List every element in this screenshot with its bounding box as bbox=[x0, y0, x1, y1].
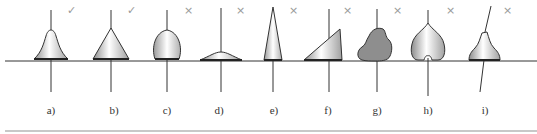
label-d: d) bbox=[214, 104, 223, 116]
shape-b-cone bbox=[93, 10, 129, 92]
cross-icon: × bbox=[503, 4, 512, 17]
label-c: c) bbox=[163, 104, 172, 116]
cross-icon: × bbox=[184, 4, 193, 17]
label-g: g) bbox=[372, 104, 381, 116]
shape-g-irregular-blob bbox=[358, 9, 392, 92]
label-e: e) bbox=[270, 104, 279, 116]
cross-icon: × bbox=[343, 4, 352, 17]
cross-icon: × bbox=[446, 4, 455, 17]
label-i: i) bbox=[482, 104, 489, 116]
cross-icon: × bbox=[236, 4, 245, 17]
shape-i-tilted-bell bbox=[469, 6, 500, 92]
check-icon: ✓ bbox=[67, 4, 76, 17]
bottom-divider bbox=[5, 130, 537, 132]
shape-c-dome bbox=[154, 10, 181, 92]
shape-e-tall-spike bbox=[264, 7, 282, 92]
label-f: f) bbox=[324, 104, 331, 116]
shape-f-right-triangle bbox=[304, 9, 342, 92]
label-b: b) bbox=[109, 104, 118, 116]
check-icon: ✓ bbox=[127, 4, 136, 17]
cross-icon: × bbox=[393, 4, 402, 17]
droplet-shapes-diagram bbox=[0, 0, 537, 134]
shape-a-bell bbox=[34, 10, 68, 92]
cross-icon: × bbox=[289, 4, 298, 17]
shape-d-flat-arc bbox=[200, 8, 242, 92]
label-a: a) bbox=[47, 104, 56, 116]
label-h: h) bbox=[423, 104, 432, 116]
shape-h-heart bbox=[411, 10, 445, 96]
